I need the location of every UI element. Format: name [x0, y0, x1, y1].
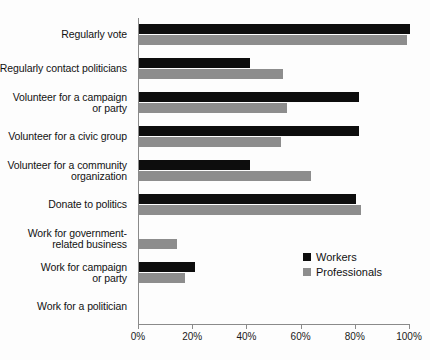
- category-label: Work for government-related business: [0, 222, 133, 256]
- x-axis-tick: [301, 324, 302, 329]
- bar-professionals: [139, 205, 361, 215]
- x-axis-tick: [138, 324, 139, 329]
- gray-square-icon: [303, 268, 311, 276]
- category-label: Regularly vote: [0, 18, 133, 52]
- bar-professionals: [139, 137, 281, 147]
- x-axis-tick: [355, 324, 356, 329]
- legend-label-professionals: Professionals: [316, 266, 382, 278]
- bar-workers: [139, 92, 359, 102]
- x-axis-tick: [409, 324, 410, 329]
- bar-workers: [139, 262, 195, 272]
- x-axis-tick: [192, 324, 193, 329]
- chart-legend: Workers Professionals: [303, 251, 382, 281]
- bar-workers: [139, 126, 359, 136]
- category-label: Work for campaignor party: [0, 256, 133, 290]
- black-square-icon: [303, 253, 311, 261]
- bar-professionals: [139, 35, 407, 45]
- x-axis-tick-label: 20%: [182, 331, 202, 342]
- legend-label-workers: Workers: [316, 251, 357, 263]
- x-axis-tick-label: 0%: [131, 331, 145, 342]
- x-axis-line: [138, 324, 409, 325]
- bar-professionals: [139, 103, 287, 113]
- bar-professionals: [139, 239, 177, 249]
- bar-chart: Regularly voteRegularly contact politici…: [0, 0, 430, 360]
- category-label: Volunteer for a communityorganization: [0, 154, 133, 188]
- category-label: Volunteer for a campaignor party: [0, 86, 133, 120]
- legend-item-professionals: Professionals: [303, 266, 382, 278]
- x-axis-tick-label: 40%: [236, 331, 256, 342]
- bar-workers: [139, 24, 410, 34]
- bar-professionals: [139, 69, 283, 79]
- legend-item-workers: Workers: [303, 251, 382, 263]
- bar-professionals: [139, 273, 185, 283]
- x-axis-tick: [246, 324, 247, 329]
- category-label-column: Regularly voteRegularly contact politici…: [0, 18, 133, 324]
- category-label: Donate to politics: [0, 188, 133, 222]
- bar-workers: [139, 194, 356, 204]
- bar-professionals: [139, 171, 311, 181]
- x-axis-tick-label: 100%: [396, 331, 422, 342]
- bar-workers: [139, 58, 250, 68]
- chart-title: [0, 0, 430, 12]
- bar-workers: [139, 160, 250, 170]
- category-label: Volunteer for a civic group: [0, 120, 133, 154]
- category-label: Regularly contact politicians: [0, 52, 133, 86]
- category-label: Work for a politician: [0, 290, 133, 324]
- x-axis-tick-label: 60%: [291, 331, 311, 342]
- x-axis-tick-label: 80%: [345, 331, 365, 342]
